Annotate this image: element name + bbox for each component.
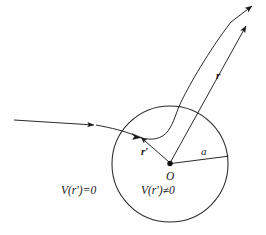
vector-r-prime-label: r′ bbox=[141, 146, 148, 157]
incoming-particle-path-curve bbox=[96, 125, 134, 135]
trajectory-point-marker bbox=[132, 134, 142, 140]
radius-segment-a bbox=[171, 156, 228, 163]
origin-label: O bbox=[166, 171, 174, 183]
vector-r-label: r bbox=[216, 70, 220, 81]
scattering-diagram: r r′ a O V(r′)=0 V(r′)≠0 bbox=[0, 0, 266, 235]
diagram-canvas bbox=[0, 0, 266, 235]
incoming-particle-path-segment bbox=[14, 120, 94, 125]
region-label-outside: V(r′)=0 bbox=[61, 185, 96, 197]
region-label-inside: V(r′)≠0 bbox=[141, 185, 175, 197]
origin-point bbox=[167, 161, 172, 166]
outgoing-particle-path bbox=[231, 6, 252, 22]
radius-label-a: a bbox=[201, 146, 207, 157]
vector-r-line bbox=[170, 26, 246, 163]
